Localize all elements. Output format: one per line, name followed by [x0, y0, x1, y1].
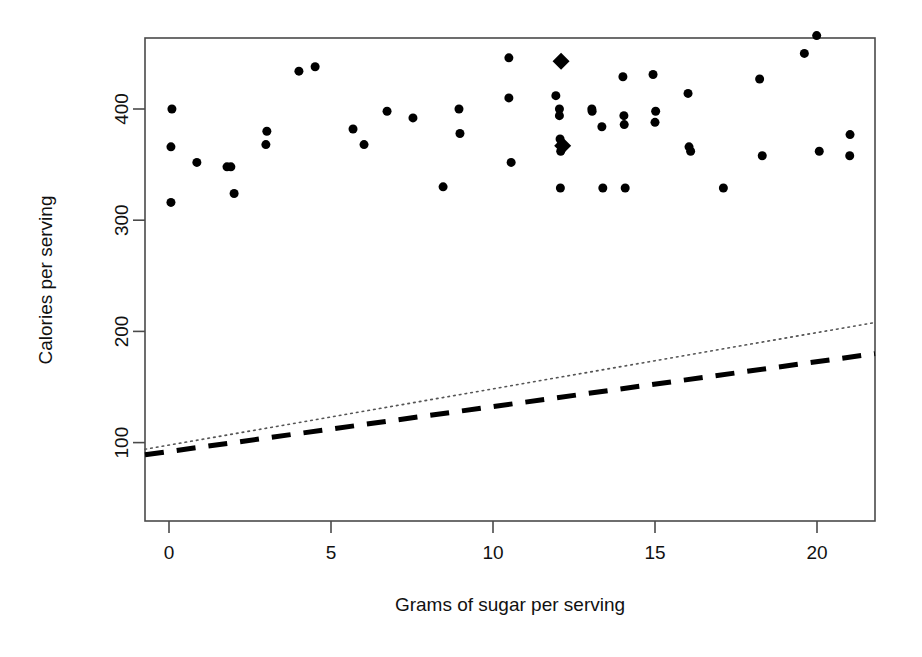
data-point-marker	[294, 67, 303, 76]
data-point-marker	[504, 93, 513, 102]
data-point-marker	[226, 162, 235, 171]
data-point-marker	[588, 107, 597, 116]
data-point-marker	[556, 183, 565, 192]
data-point-marker	[166, 142, 175, 151]
y-tick-label: 300	[111, 204, 132, 236]
data-point-marker	[812, 31, 821, 40]
data-point-marker	[555, 111, 564, 120]
data-point-marker	[597, 122, 606, 131]
data-point-marker	[455, 129, 464, 138]
data-point-marker	[383, 107, 392, 116]
data-point-marker	[846, 130, 855, 139]
data-point-marker	[261, 140, 270, 149]
x-tick-label: 15	[644, 542, 665, 563]
data-point-marker	[651, 107, 660, 116]
data-point-marker	[166, 198, 175, 207]
data-point-marker	[262, 127, 271, 136]
data-point-marker	[454, 105, 463, 114]
x-axis-title: Grams of sugar per serving	[395, 594, 625, 615]
y-axis-title: Calories per serving	[35, 196, 56, 365]
data-point-marker	[815, 147, 824, 156]
x-tick-label: 5	[326, 542, 337, 563]
data-point-marker	[230, 189, 239, 198]
data-point-marker	[845, 151, 854, 160]
data-point-marker	[192, 158, 201, 167]
data-point-marker	[684, 89, 693, 98]
data-point-marker	[551, 91, 560, 100]
data-point-marker	[360, 140, 369, 149]
data-point-marker	[504, 53, 513, 62]
data-point-marker	[349, 125, 358, 134]
y-tick-label: 400	[111, 93, 132, 125]
data-point-marker	[649, 70, 658, 79]
data-point-marker	[686, 147, 695, 156]
data-point-marker	[800, 49, 809, 58]
figure-background	[0, 0, 922, 657]
data-point-marker	[719, 183, 728, 192]
x-tick-label: 20	[806, 542, 827, 563]
x-tick-label: 10	[482, 542, 503, 563]
y-tick-label: 100	[111, 427, 132, 459]
data-point-marker	[619, 111, 628, 120]
data-point-marker	[408, 113, 417, 122]
data-point-marker	[311, 62, 320, 71]
data-point-marker	[620, 120, 629, 129]
data-point-marker	[618, 72, 627, 81]
data-point-marker	[439, 182, 448, 191]
data-point-marker	[621, 183, 630, 192]
data-point-marker	[755, 74, 764, 83]
data-point-marker	[758, 151, 767, 160]
data-point-marker	[167, 105, 176, 114]
data-point-marker	[507, 158, 516, 167]
data-point-marker	[651, 118, 660, 127]
plot-canvas: 05101520 100200300400 Grams of sugar per…	[0, 0, 922, 657]
scatter-plot-figure: 05101520 100200300400 Grams of sugar per…	[0, 0, 922, 657]
data-point-marker	[598, 183, 607, 192]
x-tick-label: 0	[164, 542, 175, 563]
y-tick-label: 200	[111, 316, 132, 348]
